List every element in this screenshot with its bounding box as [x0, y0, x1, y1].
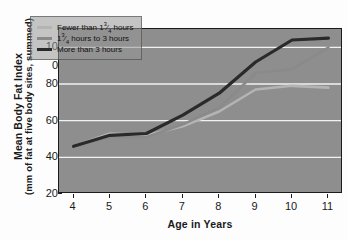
legend-label-mid-range: 13⁄4 hours to 3 hours — [57, 34, 129, 43]
legend-item-more-than-3: More than 3 hours — [37, 44, 134, 54]
x-axis-title: Age in Years — [55, 218, 345, 230]
x-tick-label: 9 — [252, 200, 258, 212]
legend-swatch-fewer-than — [37, 26, 52, 29]
x-tick-mark — [255, 194, 256, 198]
y-tick-label: 20 — [24, 187, 58, 199]
x-axis-tick-labels: 4567891011 — [58, 196, 342, 214]
legend-swatch-mid-range — [37, 37, 52, 40]
x-tick-label: 5 — [106, 200, 112, 212]
x-tick-mark — [145, 194, 146, 198]
y-tick-mark — [58, 193, 62, 194]
y-tick-label: 0 — [24, 59, 58, 71]
x-tick-label: 8 — [215, 200, 221, 212]
legend-label-fewer-than: Fewer than 13⁄4 hours — [57, 23, 134, 32]
y-tick-label: 80 — [24, 77, 58, 89]
x-tick-mark — [218, 194, 219, 198]
y-tick-label: 60 — [24, 114, 58, 126]
chart-figure: Mean Body Fat Index (mm of fat at five b… — [0, 0, 348, 240]
chart-legend: Fewer than 13⁄4 hours 13⁄4 hours to 3 ho… — [30, 16, 142, 60]
y-tick-label: 40 — [24, 150, 58, 162]
x-tick-mark — [109, 194, 110, 198]
legend-item-fewer-than: Fewer than 13⁄4 hours — [37, 22, 134, 32]
x-tick-mark — [327, 194, 328, 198]
x-tick-label: 7 — [179, 200, 185, 212]
legend-swatch-more-than-3 — [37, 48, 52, 51]
x-tick-mark — [182, 194, 183, 198]
legend-item-mid-range: 13⁄4 hours to 3 hours — [37, 33, 134, 43]
x-tick-label: 6 — [142, 200, 148, 212]
x-tick-label: 10 — [285, 200, 297, 212]
x-tick-label: 11 — [322, 200, 333, 212]
x-tick-label: 4 — [70, 200, 76, 212]
x-tick-mark — [291, 194, 292, 198]
data-series-line — [74, 47, 329, 146]
legend-label-more-than-3: More than 3 hours — [57, 45, 122, 54]
x-tick-mark — [73, 194, 74, 198]
